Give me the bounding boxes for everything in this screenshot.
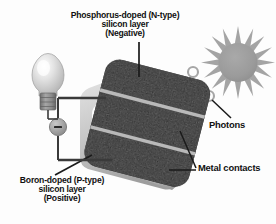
solar-cell-diagram: Phosphorus-doped (N-type) silicon layer … (0, 0, 276, 224)
label-ptype-line3: (Positive) (0, 194, 126, 203)
label-ptype-layer: Boron-doped (P-type) silicon layer (Posi… (0, 176, 126, 203)
electron-marker (49, 118, 66, 135)
minus-sign-icon (54, 126, 62, 128)
sun-icon (201, 26, 275, 99)
label-ntype-layer: Phosphorus-doped (N-type) silicon layer … (50, 11, 200, 38)
label-ntype-line3: (Negative) (50, 29, 200, 38)
photons-leader-line (212, 100, 231, 118)
label-metal-contacts: Metal contacts (198, 163, 276, 173)
bulb-highlight (37, 60, 50, 76)
light-bulb-icon (32, 54, 64, 120)
bulb-glass (32, 54, 64, 97)
label-photons: Photons (209, 120, 269, 130)
bulb-base (40, 93, 56, 110)
